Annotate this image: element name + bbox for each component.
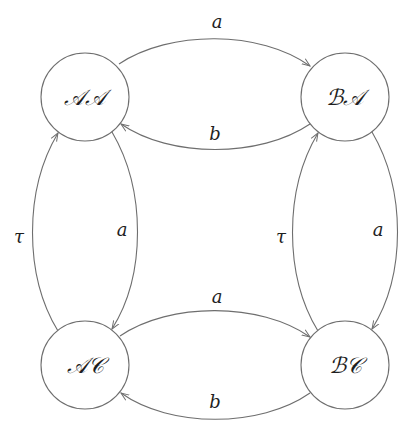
edge-AA-to-BA — [119, 39, 310, 66]
node-label-BA: ℬ𝒜 — [326, 85, 370, 110]
edge-label-BC-AC: b — [209, 391, 221, 412]
edge-label-AC-BC: a — [212, 286, 223, 307]
edge-label-AC-AA: τ — [14, 226, 25, 247]
edge-label-AA-AC: a — [117, 219, 128, 240]
node-AC: 𝒜𝒞 — [41, 321, 129, 409]
edge-label-AA-BA: a — [212, 11, 223, 32]
edge-label-BC-BA: τ — [276, 226, 287, 247]
state-diagram: a b τ a τ a a b 𝒜𝒜 ℬ𝒜 𝒜𝒞 ℬ𝒞 — [0, 0, 417, 438]
node-label-AC: 𝒜𝒞 — [67, 353, 110, 378]
edge-label-BA-AA: b — [209, 123, 221, 144]
edge-AC-to-AA — [33, 133, 59, 331]
node-label-AA: 𝒜𝒜 — [64, 85, 112, 110]
edge-BC-to-BA — [293, 133, 319, 331]
edge-label-BA-BC: a — [373, 219, 384, 240]
node-AA: 𝒜𝒜 — [41, 53, 129, 141]
node-BC: ℬ𝒞 — [301, 321, 389, 409]
node-BA: ℬ𝒜 — [301, 53, 389, 141]
edge-AC-to-BC — [120, 311, 310, 337]
